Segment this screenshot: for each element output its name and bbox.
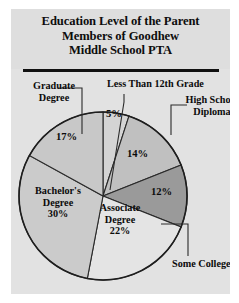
slice-value-less-than-12th: 5% [106, 108, 122, 120]
slice-label-graduate-degree: Graduate Degree [25, 80, 83, 103]
title-line-2: Members of Goodhew [11, 29, 230, 44]
slice-label-bachelors-degree-line1: Bachelor's [27, 185, 89, 197]
slice-label-associate-degree: Associate Degree 22% [89, 202, 151, 237]
slice-label-high-school-diploma-line2: Diploma [181, 106, 230, 118]
slice-label-some-college: Some College [172, 258, 230, 270]
slice-label-associate-degree-line2: Degree [89, 214, 151, 226]
slice-label-graduate-degree-line2: Degree [25, 92, 83, 104]
slice-value-some-college: 12% [151, 186, 172, 198]
pie-chart-figure: Education Level of the Parent Members of… [11, 9, 230, 294]
plot-area: Graduate Degree Less Than 12th Grade Hig… [11, 72, 230, 294]
slice-value-high-school-diploma: 14% [127, 148, 148, 160]
slice-label-high-school-diploma: High School Diploma [181, 94, 230, 117]
slice-value-graduate-degree: 17% [56, 131, 77, 143]
slice-label-high-school-diploma-line1: High School [181, 94, 230, 106]
title-line-1: Education Level of the Parent [11, 14, 230, 29]
slice-label-associate-degree-line1: Associate [89, 202, 151, 214]
slice-label-graduate-degree-line1: Graduate [25, 80, 83, 92]
title-panel: Education Level of the Parent Members of… [11, 9, 230, 69]
slice-value-associate-degree: 22% [89, 225, 151, 237]
title-line-3: Middle School PTA [11, 43, 230, 58]
slice-label-less-than-12th: Less Than 12th Grade [107, 78, 204, 90]
slice-label-bachelors-degree-line2: Degree [27, 197, 89, 209]
slice-value-bachelors-degree: 30% [27, 208, 89, 220]
page-title: Education Level of the Parent Members of… [11, 14, 230, 58]
slice-label-bachelors-degree: Bachelor's Degree 30% [27, 185, 89, 220]
